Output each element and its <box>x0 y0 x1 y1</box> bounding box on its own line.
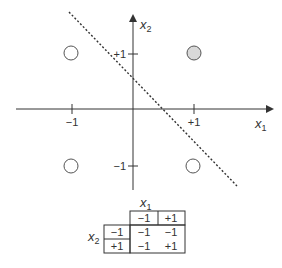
point-pos1-pos1-filled <box>187 46 201 60</box>
perceptron-and-diagram: −1 +1 +1 −1 x1 x2 x1 x2 −1 +1 −1 +1 −1 −… <box>0 0 282 268</box>
col-header-pos1: +1 <box>165 212 178 224</box>
truth-table: x1 x2 −1 +1 −1 +1 −1 −1 −1 +1 <box>87 195 185 253</box>
row-header-neg1: −1 <box>111 226 124 238</box>
table-row-var-label: x2 <box>87 229 100 246</box>
cell-r0-c1: −1 <box>165 226 178 238</box>
x1-axis-label: x1 <box>254 116 267 133</box>
y-tick-label-neg1: −1 <box>113 160 126 172</box>
decision-boundary-line <box>69 12 237 186</box>
y-tick-label-pos1: +1 <box>113 48 126 60</box>
x2-axis-label: x2 <box>139 17 152 34</box>
point-neg1-neg1 <box>64 159 78 173</box>
cell-r1-c0: −1 <box>138 240 151 252</box>
row-header-pos1: +1 <box>111 240 124 252</box>
col-header-neg1: −1 <box>138 212 151 224</box>
point-neg1-pos1 <box>64 46 78 60</box>
point-pos1-neg1 <box>186 159 200 173</box>
cell-r0-c0: −1 <box>138 226 151 238</box>
x-tick-label-neg1: −1 <box>66 116 79 128</box>
table-col-var-label: x1 <box>139 195 152 212</box>
x-tick-label-pos1: +1 <box>188 116 201 128</box>
cell-r1-c1: +1 <box>165 240 178 252</box>
